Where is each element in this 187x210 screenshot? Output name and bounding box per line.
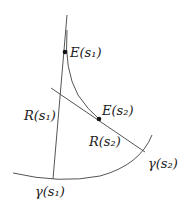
evolute-diagram: E(s₁) E(s₂) R(s₁) R(s₂) γ(s₁) γ(s₂) <box>0 0 187 210</box>
label-R-s2: R(s₂) <box>88 134 121 149</box>
label-R-s1: R(s₁) <box>23 108 56 123</box>
evolute-curve <box>66 30 99 119</box>
label-gamma-s1: γ(s₁) <box>35 184 65 199</box>
label-gamma-s2: γ(s₂) <box>148 156 178 171</box>
curve-gamma <box>13 135 152 179</box>
label-E-s2: E(s₂) <box>101 103 134 118</box>
point-E-s1 <box>63 50 68 55</box>
point-E-s2 <box>97 117 102 122</box>
label-E-s1: E(s₁) <box>69 45 102 60</box>
